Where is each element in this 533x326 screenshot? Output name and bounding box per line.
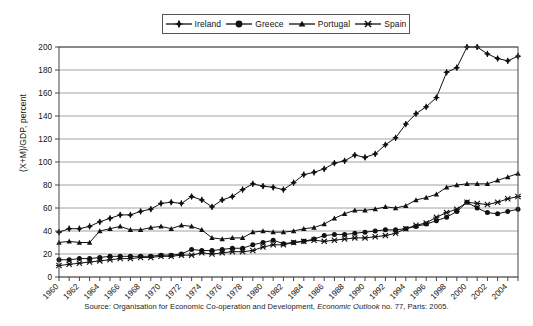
series-ireland xyxy=(56,44,521,235)
svg-text:2004: 2004 xyxy=(490,282,510,302)
svg-text:1980: 1980 xyxy=(245,282,265,302)
svg-text:1972: 1972 xyxy=(164,282,184,302)
source-prefix: Source: Organisation for Economic Co-ope… xyxy=(84,302,317,311)
svg-text:80: 80 xyxy=(43,181,53,190)
chart-page: Ireland Greece Portugal Spain xyxy=(0,0,533,326)
svg-text:1998: 1998 xyxy=(429,282,449,302)
y-axis-ticks: 020406080100120140160180200 xyxy=(38,43,59,282)
svg-text:1976: 1976 xyxy=(204,282,224,302)
svg-text:1970: 1970 xyxy=(143,282,163,302)
svg-text:1994: 1994 xyxy=(388,282,408,302)
svg-text:1966: 1966 xyxy=(102,282,122,302)
svg-text:20: 20 xyxy=(43,250,53,259)
source-note: Source: Organisation for Economic Co-ope… xyxy=(0,302,533,311)
svg-text:180: 180 xyxy=(38,66,52,75)
plot-area: (X+M)/GDP, percent 020406080100120140160… xyxy=(0,0,533,326)
svg-text:40: 40 xyxy=(43,227,53,236)
svg-text:2002: 2002 xyxy=(470,282,490,302)
data-series-group xyxy=(56,44,521,268)
source-italic-title: Economic Outlook xyxy=(317,302,379,311)
svg-text:1968: 1968 xyxy=(123,282,143,302)
svg-text:1964: 1964 xyxy=(82,282,102,302)
svg-text:60: 60 xyxy=(43,204,53,213)
svg-text:0: 0 xyxy=(47,273,52,282)
svg-text:2000: 2000 xyxy=(449,282,469,302)
svg-text:1992: 1992 xyxy=(368,282,388,302)
svg-text:1996: 1996 xyxy=(408,282,428,302)
svg-text:120: 120 xyxy=(38,135,52,144)
source-suffix: no. 77, Paris: 2005. xyxy=(380,302,449,311)
x-axis-tick-labels: 1960196219641966196819701972197419761978… xyxy=(41,282,509,302)
line-chart-svg: 020406080100120140160180200 196019621964… xyxy=(0,0,533,326)
svg-text:1988: 1988 xyxy=(327,282,347,302)
svg-text:1974: 1974 xyxy=(184,282,204,302)
svg-text:1960: 1960 xyxy=(41,282,61,302)
x-axis-ticks xyxy=(59,277,518,281)
gridlines xyxy=(59,47,518,277)
svg-text:100: 100 xyxy=(38,158,52,167)
svg-text:1984: 1984 xyxy=(286,282,306,302)
svg-text:200: 200 xyxy=(38,43,52,52)
svg-text:1986: 1986 xyxy=(306,282,326,302)
svg-text:1962: 1962 xyxy=(62,282,82,302)
svg-text:1990: 1990 xyxy=(347,282,367,302)
svg-text:1978: 1978 xyxy=(225,282,245,302)
svg-text:1982: 1982 xyxy=(266,282,286,302)
svg-text:160: 160 xyxy=(38,89,52,98)
svg-text:140: 140 xyxy=(38,112,52,121)
